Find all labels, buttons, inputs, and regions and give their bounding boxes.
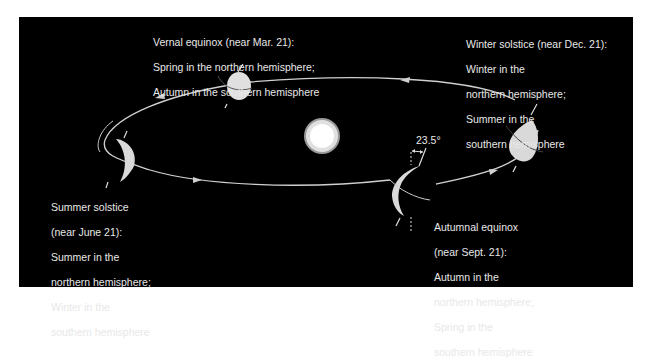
label-line: northern hemisphere; xyxy=(466,88,607,101)
label-line: Winter in the xyxy=(51,301,151,314)
winter-solstice-label: Winter solstice (near Dec. 21): Winter i… xyxy=(466,25,607,163)
earth-autumnal-icon xyxy=(390,148,430,233)
label-line: Autumnal equinox xyxy=(434,221,534,234)
label-line: Spring in the northern hemisphere; xyxy=(153,61,319,74)
label-line: (near Sept. 21): xyxy=(434,246,534,259)
label-line: southern hemisphere xyxy=(466,138,607,151)
label-line: southern hemisphere xyxy=(434,346,534,359)
label-line: Spring in the xyxy=(434,321,534,334)
label-line: Winter in the xyxy=(466,63,607,76)
label-line: Winter solstice (near Dec. 21): xyxy=(466,38,607,51)
label-line: Vernal equinox (near Mar. 21): xyxy=(153,36,319,49)
label-line: southern hemisphere xyxy=(51,326,151,339)
label-line: (near June 21): xyxy=(51,226,151,239)
label-line: Autumn in the southern hemisphere xyxy=(153,86,319,99)
label-line: Autumn in the xyxy=(434,271,534,284)
summer-solstice-label: Summer solstice (near June 21): Summer i… xyxy=(51,188,151,351)
label-line: Summer in the xyxy=(466,113,607,126)
label-line: Summer in the xyxy=(51,251,151,264)
sun-icon xyxy=(304,118,340,154)
label-line: northern hemisphere; xyxy=(434,296,534,309)
label-line: Summer solstice xyxy=(51,201,151,214)
vernal-equinox-label: Vernal equinox (near Mar. 21): Spring in… xyxy=(153,23,319,111)
label-line: northern hemisphere; xyxy=(51,276,151,289)
autumnal-equinox-label: Autumnal equinox (near Sept. 21): Autumn… xyxy=(434,208,534,362)
tilt-angle-label: 23.5° xyxy=(416,134,441,146)
earth-summer-icon xyxy=(98,121,135,188)
